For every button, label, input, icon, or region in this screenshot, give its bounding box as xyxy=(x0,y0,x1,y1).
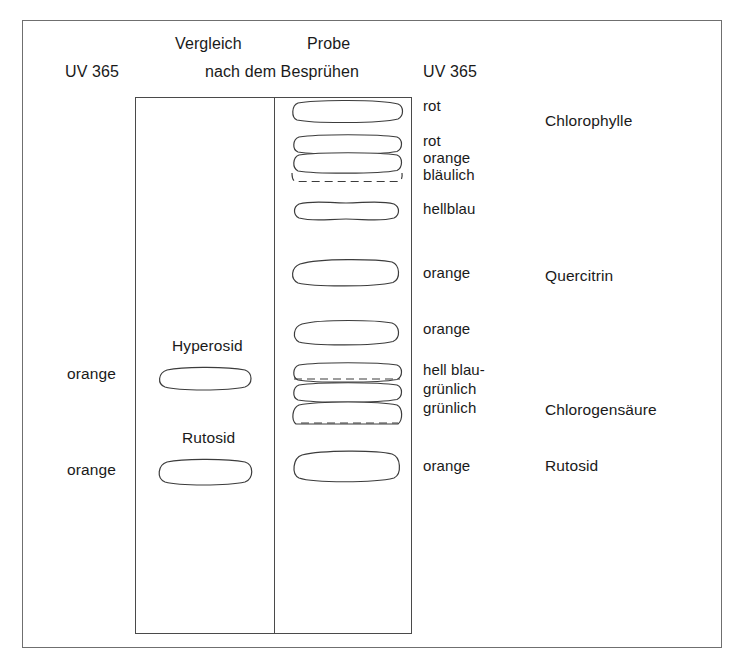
reference-band-rutosid xyxy=(155,457,257,488)
assignment-rutosid: Rutosid xyxy=(545,458,598,474)
sample-band-12-dashed xyxy=(288,418,406,428)
header-reference-lane: Vergleich xyxy=(175,36,242,53)
sample-band-6 xyxy=(288,256,404,289)
lane-divider xyxy=(274,97,275,634)
header-detection-left: UV 365 xyxy=(65,64,119,81)
header-detection-right: UV 365 xyxy=(423,64,477,81)
reference-band-hyperosid xyxy=(155,365,257,393)
sample-color-label-7: orange xyxy=(423,321,470,337)
sample-band-7 xyxy=(290,317,404,347)
sample-color-label-1: rot xyxy=(423,98,441,114)
sample-band-13 xyxy=(290,448,404,484)
sample-color-label-10: grünlich xyxy=(423,400,476,416)
header-sample-lane: Probe xyxy=(307,36,350,53)
reference-standard-label-rutosid: Rutosid xyxy=(182,430,235,446)
sample-color-label-3: orange xyxy=(423,150,470,166)
sample-color-label-6: orange xyxy=(423,265,470,281)
tlc-chromatogram-figure: Vergleich Probe nach dem Besprühen UV 36… xyxy=(0,0,746,663)
sample-color-label-2: rot xyxy=(423,133,441,149)
reference-standard-label-hyperosid: Hyperosid xyxy=(172,338,243,354)
sample-color-label-11: orange xyxy=(423,458,470,474)
assignment-chlorophylle: Chlorophylle xyxy=(545,113,632,129)
sample-color-label-8: hell blau- xyxy=(423,362,485,378)
assignment-chlorogensaeure: Chlorogensäure xyxy=(545,402,657,418)
sample-band-5 xyxy=(290,198,403,224)
sample-color-label-4: bläulich xyxy=(423,167,475,183)
sample-band-1 xyxy=(288,99,406,125)
assignment-quercitrin: Quercitrin xyxy=(545,268,613,284)
sample-band-4-dashed xyxy=(288,168,406,186)
reference-color-label-rutosid: orange xyxy=(67,462,116,478)
header-condition: nach dem Besprühen xyxy=(205,64,359,81)
reference-color-label-hyperosid: orange xyxy=(67,366,116,382)
sample-color-label-9: grünlich xyxy=(423,381,476,397)
sample-color-label-5: hellblau xyxy=(423,201,476,217)
